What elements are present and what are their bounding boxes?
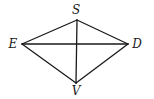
vertex-label-D: D (131, 37, 142, 51)
segment-EV (22, 44, 76, 83)
vertex-label-E: E (8, 37, 18, 51)
segment-DV (76, 44, 128, 83)
segment-SE (22, 20, 77, 44)
vertex-label-V: V (72, 84, 82, 98)
vertex-label-S: S (72, 3, 80, 17)
quadrilateral-diagram: S E D V (0, 0, 154, 99)
diagonal-SV (76, 20, 77, 83)
segment-SD (77, 20, 128, 44)
